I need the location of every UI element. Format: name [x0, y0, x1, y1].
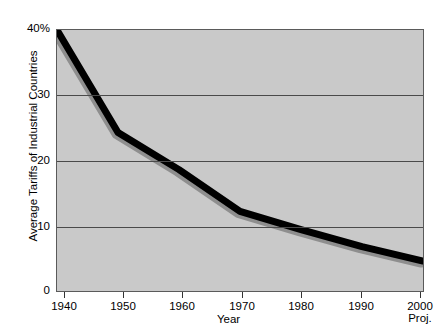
y-tick-label-40: 40% [6, 23, 50, 35]
x-tick-label-1980: 1980 [271, 300, 331, 312]
x-tick-label-1990: 1990 [331, 300, 391, 312]
x-tick-label-1940-text: 1940 [51, 300, 77, 312]
x-tick-label-1960-text: 1960 [169, 300, 195, 312]
y-axis-title: Average Tariffs of Industrial Countries [27, 16, 39, 276]
x-tick-mark-1940 [64, 292, 65, 298]
x-tick-mark-1950 [123, 292, 124, 298]
x-axis-title-text: Year [217, 313, 240, 325]
y-tick-label-10: 10 [6, 221, 50, 233]
gridline-10 [57, 227, 423, 228]
x-tick-label-1950: 1950 [93, 300, 153, 312]
x-tick-mark-1990 [361, 292, 362, 298]
x-tick-mark-1960 [182, 292, 183, 298]
gridline-30 [57, 95, 423, 96]
y-tick-label-0: 0 [6, 285, 50, 297]
x-tick-mark-1970 [242, 292, 243, 298]
x-tick-mark-2000 [420, 292, 421, 298]
y-tick-label-20: 20 [6, 155, 50, 167]
gridline-20 [57, 161, 423, 162]
x-tick-label-2000-text: 2000 [407, 300, 433, 312]
plot-area [56, 29, 424, 292]
y-tick-label-30: 30 [6, 89, 50, 101]
x-tick-label-1970-text: 1970 [229, 300, 255, 312]
x-tick-mark-1980 [301, 292, 302, 298]
x-tick-label-1940: 1940 [34, 300, 94, 312]
x-axis-title: Year [0, 313, 445, 325]
chart-figure: Average Tariffs of Industrial Countries … [0, 0, 445, 327]
x-tick-label-1980-text: 1980 [288, 300, 314, 312]
x-tick-label-1990-text: 1990 [348, 300, 374, 312]
data-series-shadow [57, 33, 421, 264]
x-tick-label-1960: 1960 [152, 300, 212, 312]
x-tick-label-1970: 1970 [212, 300, 272, 312]
x-tick-label-1950-text: 1950 [110, 300, 136, 312]
